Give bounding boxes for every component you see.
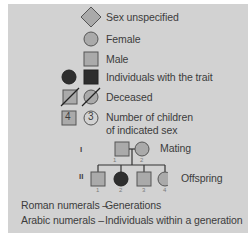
child-2-number: 2 — [119, 187, 122, 193]
label-female: Female — [106, 33, 140, 45]
generation-I: I — [80, 145, 82, 154]
child-4-number: 4 — [163, 187, 166, 193]
affected-square-icon — [83, 69, 99, 85]
parent-1-number: 1 — [113, 157, 116, 163]
deceased-square-icon — [60, 87, 80, 107]
square-count: 4 — [65, 111, 70, 122]
label-affected: Individuals with the trait — [106, 71, 213, 83]
parent-male — [115, 142, 129, 156]
deceased-circle-icon — [81, 87, 101, 107]
label-number-children-2: of indicated sex — [106, 124, 177, 136]
child-1-number: 1 — [96, 187, 99, 193]
label-offspring: Offspring — [181, 172, 223, 184]
generation-II: II — [79, 172, 83, 181]
parent-2-number: 2 — [140, 157, 143, 163]
child-4-female — [158, 172, 168, 186]
child-2-female-affected — [114, 172, 128, 186]
child-3-number: 3 — [142, 187, 145, 193]
diamond-icon — [80, 6, 102, 28]
square-icon — [83, 51, 99, 67]
arabic-key: Arabic numerals – — [21, 214, 104, 226]
circle-icon — [83, 31, 99, 47]
label-number-children-1: Number of children — [106, 111, 193, 123]
pedigree-tree — [88, 138, 168, 200]
label-male: Male — [106, 53, 128, 65]
parent-female — [135, 142, 149, 156]
label-sex-unspecified: Sex unspecified — [106, 11, 179, 23]
circle-count: 3 — [88, 111, 93, 122]
child-1-male — [91, 172, 105, 186]
roman-value: Generations — [105, 199, 161, 211]
child-3-male — [137, 172, 151, 186]
affected-circle-icon — [61, 69, 77, 85]
roman-key: Roman numerals – — [21, 199, 108, 211]
label-deceased: Deceased — [106, 91, 152, 103]
arabic-value: Individuals within a generation — [105, 214, 243, 226]
label-mating: Mating — [160, 142, 191, 154]
